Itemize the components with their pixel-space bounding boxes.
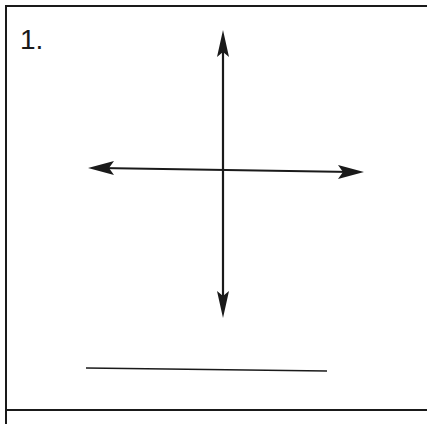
answer-line[interactable] [86,368,327,371]
horizontal-double-arrow [88,161,364,179]
vertical-double-arrow [217,30,229,318]
